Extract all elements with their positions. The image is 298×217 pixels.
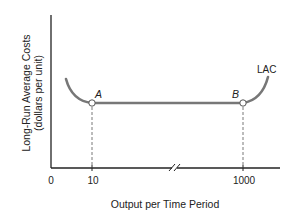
- point-a: [89, 100, 95, 106]
- tick-label-1000: 1000: [233, 175, 255, 186]
- y-axis-label: Long-Run Average Costs (dollars per unit…: [20, 34, 44, 151]
- point-a-label: A: [95, 88, 102, 100]
- tick-label-10: 10: [87, 175, 98, 186]
- lac-chart: Long-Run Average Costs (dollars per unit…: [0, 0, 298, 217]
- point-b: [240, 100, 246, 106]
- tick-label-0: 0: [48, 175, 54, 186]
- x-axis-label: Output per Time Period: [111, 198, 220, 210]
- lac-curve-label: LAC: [257, 64, 276, 75]
- y-axis-label-main: Long-Run Average Costs: [20, 34, 32, 151]
- y-axis-label-sub: (dollars per unit): [32, 34, 44, 151]
- point-b-label: B: [232, 88, 239, 100]
